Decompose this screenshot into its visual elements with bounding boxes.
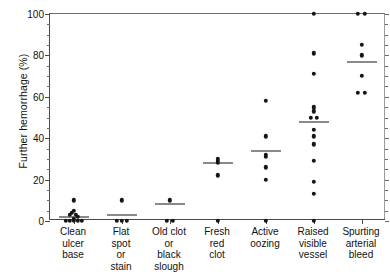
x-category-label-line: or [152,238,186,250]
data-point [312,51,316,55]
data-point [312,72,316,76]
y-tick-right [385,97,389,98]
data-point [309,115,313,119]
y-tick-major [45,97,50,98]
x-category-label-line: base [60,249,86,261]
y-tick-label: 100 [27,9,44,20]
data-point [120,198,124,202]
y-tick-minor [47,211,50,212]
y-tick-major [45,55,50,56]
x-category-label-line: visible [297,238,328,250]
x-category-label-line: red [204,238,230,250]
y-tick-minor [47,107,50,108]
y-tick-major [45,14,50,15]
x-category-label: Activeoozing [250,226,279,249]
y-tick-right-minor [385,159,388,160]
data-point [264,155,268,159]
x-category-label-line: clot [204,249,230,261]
y-tick-minor [47,149,50,150]
y-tick-minor [47,200,50,201]
data-point [264,177,268,181]
data-point [80,219,84,223]
data-point [315,115,319,119]
y-tick-major [45,221,50,222]
x-category-label-line: slough [152,261,186,273]
median-line [59,216,89,217]
x-category-label-line: black [152,249,186,261]
y-tick-right [385,221,389,222]
data-point [264,165,268,169]
data-point [312,192,316,196]
data-point [312,109,316,113]
x-category-label: Raisedvisiblevessel [297,226,328,261]
data-point [356,12,360,16]
data-point [264,99,268,103]
median-line [251,150,281,151]
y-tick-right-minor [385,190,388,191]
x-axis-category-labels: CleanulcerbaseFlatspotorstainOld clotorb… [49,226,385,278]
data-point [120,219,124,223]
data-point [168,198,172,202]
data-point [125,219,129,223]
x-category-label-line: oozing [250,238,279,250]
x-category-label-line: Old clot [152,226,186,238]
y-tick-right-minor [385,24,388,25]
x-category-label: Cleanulcerbase [60,226,86,261]
y-tick-right-minor [385,35,388,36]
y-tick-minor [47,66,50,67]
y-tick-right [385,180,389,181]
y-tick-right-minor [385,66,388,67]
x-category-label: Freshredclot [204,226,230,261]
y-tick-right [385,55,389,56]
x-category-label-line: arterial [342,238,379,250]
y-tick-label: 20 [33,174,44,185]
x-category-label-line: Active [250,226,279,238]
data-point [312,159,316,163]
y-tick-minor [47,190,50,191]
data-point [216,219,220,223]
x-tick [362,219,363,224]
median-line [347,61,377,62]
y-tick-right [385,138,389,139]
data-point [72,198,76,202]
median-line [107,214,137,215]
median-line [203,163,233,164]
x-category-label-line: vessel [297,249,328,261]
data-point [171,219,175,223]
x-category-label-line: Spurting [342,226,379,238]
data-point [165,219,169,223]
y-tick-right-minor [385,149,388,150]
y-tick-major [45,180,50,181]
y-tick-minor [47,159,50,160]
y-tick-minor [47,45,50,46]
y-tick-right-minor [385,169,388,170]
y-tick-right-minor [385,118,388,119]
median-line [155,204,185,205]
x-category-label-line: spot [110,238,131,250]
y-tick-major [45,138,50,139]
y-tick-right-minor [385,107,388,108]
y-tick-minor [47,118,50,119]
data-point [360,43,364,47]
y-tick-right-minor [385,76,388,77]
data-point [363,12,367,16]
x-category-label-line: Fresh [204,226,230,238]
plot-area: 020406080100 [49,13,385,220]
x-category-label-line: Raised [297,226,328,238]
x-category-label: Old clotorblackslough [152,226,186,272]
y-tick-minor [47,35,50,36]
y-tick-minor [47,169,50,170]
data-point [216,173,220,177]
data-point [312,219,316,223]
y-tick-label: 80 [33,50,44,61]
y-tick-right-minor [385,45,388,46]
data-point [360,74,364,78]
y-tick-minor [47,86,50,87]
median-line [299,121,329,122]
y-tick-right-minor [385,128,388,129]
data-point [312,134,316,138]
data-point [363,90,367,94]
data-point [312,12,316,16]
x-category-label-line: Flat [110,226,131,238]
x-category-label: Flatspotorstain [110,226,131,272]
